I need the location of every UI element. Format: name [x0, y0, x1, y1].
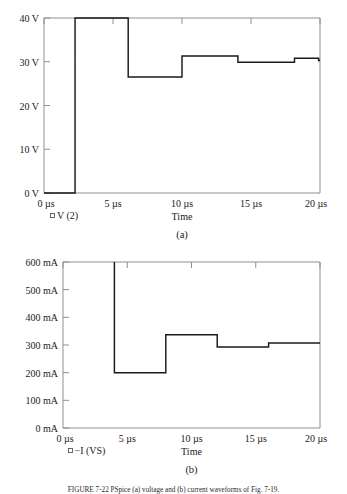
y-tick-label: 300 mA: [26, 340, 59, 351]
y-tick-label: 500 mA: [26, 285, 59, 296]
y-tick-label: 200 mA: [26, 368, 59, 379]
x-tick-label: 0 µs: [56, 433, 73, 444]
x-tick-labels-b: 0 µs 5 µs 10 µs 15 µs 20 µs: [56, 433, 327, 444]
legend-square-icon: [69, 449, 73, 453]
legend-label: −I (VS): [75, 445, 106, 457]
y-tick-label: 10 V: [19, 144, 39, 155]
legend-a[interactable]: V (2): [51, 210, 79, 222]
plot-border-a: [44, 18, 320, 193]
waveform-trace-i-vs: [114, 262, 320, 373]
legend-b[interactable]: −I (VS): [69, 445, 106, 457]
y-tick-label: 30 V: [19, 57, 39, 68]
x-tick-label: 15 µs: [240, 198, 262, 209]
axes-frame-a: [44, 18, 320, 193]
chart-panel-a: 40 V 30 V 20 V 10 V 0 V 0 µs 5 µs 10 µs …: [0, 0, 347, 246]
panel-subcaption-a: (a): [176, 229, 188, 241]
x-axis-title-b: Time: [181, 446, 202, 457]
x-axis-title-a: Time: [172, 211, 193, 222]
x-tick-label: 20 µs: [305, 198, 327, 209]
panel-subcaption-b: (b): [185, 464, 198, 476]
current-waveform-plot: 600 mA 500 mA 400 mA 300 mA 200 mA 100 m…: [0, 244, 347, 493]
waveform-trace-v2: [44, 18, 320, 193]
figure-caption: FIGURE 7-22 PSpice (a) voltage and (b) c…: [0, 486, 347, 494]
axes-frame-b: [63, 262, 320, 428]
x-tick-label: 15 µs: [245, 433, 267, 444]
y-tick-label: 0 mA: [36, 423, 59, 434]
x-tick-label: 0 µs: [37, 198, 54, 209]
y-tick-labels-a: 40 V 30 V 20 V 10 V 0 V: [19, 13, 39, 199]
legend-square-icon: [51, 214, 55, 218]
x-tick-label: 5 µs: [104, 198, 121, 209]
plot-border-b: [63, 262, 320, 428]
x-tick-label: 20 µs: [305, 433, 327, 444]
y-ticks-b: [63, 262, 69, 428]
x-tick-label: 10 µs: [171, 198, 193, 209]
x-tick-label: 10 µs: [180, 433, 202, 444]
chart-panel-b: 600 mA 500 mA 400 mA 300 mA 200 mA 100 m…: [0, 244, 347, 493]
y-tick-label: 600 mA: [26, 257, 59, 268]
y-tick-labels-b: 600 mA 500 mA 400 mA 300 mA 200 mA 100 m…: [26, 257, 59, 434]
x-tick-label: 5 µs: [119, 433, 136, 444]
y-tick-label: 20 V: [19, 101, 39, 112]
y-tick-label: 100 mA: [26, 395, 59, 406]
y-ticks-a: [44, 18, 50, 193]
y-tick-label: 40 V: [19, 13, 39, 24]
voltage-waveform-plot: 40 V 30 V 20 V 10 V 0 V 0 µs 5 µs 10 µs …: [0, 0, 347, 246]
x-ticks-b: [63, 262, 320, 268]
x-tick-labels-a: 0 µs 5 µs 10 µs 15 µs 20 µs: [37, 198, 327, 209]
y-tick-label: 400 mA: [26, 312, 59, 323]
x-ticks-a: [44, 18, 320, 24]
legend-label: V (2): [57, 210, 78, 222]
